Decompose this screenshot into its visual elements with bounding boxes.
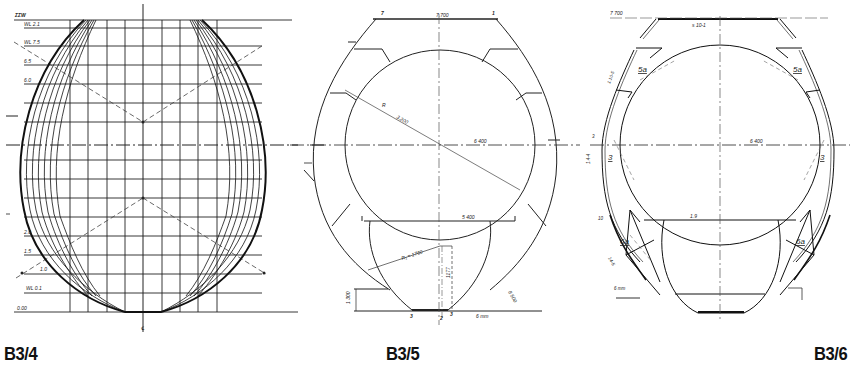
figure-b3-4: ΣΣW WL 2.1 WL 7.5 6.5 6.0 2.0 1.5 1.0 WL… [0, 0, 300, 340]
svg-text:2.0: 2.0 [23, 229, 31, 235]
svg-text:0.00: 0.00 [17, 305, 27, 311]
structural-section-drawing: 7 700 s 10-1 6 400 1.9 5a 5a 3 3 6a 6a 3… [580, 0, 860, 340]
svg-text:R₁ = 1760: R₁ = 1760 [400, 248, 423, 261]
svg-text:6.5: 6.5 [24, 58, 31, 64]
svg-text:2: 2 [439, 315, 443, 321]
figure-caption: B3/6 [814, 344, 847, 365]
svg-text:7: 7 [381, 10, 384, 16]
svg-text:6 mm: 6 mm [614, 286, 626, 291]
svg-text:WL 2.1: WL 2.1 [24, 21, 40, 27]
figure-b3-5: 7.700 7 1 R 3.200 6 400 5 400 R₁ = 1760 … [290, 0, 580, 340]
svg-text:3: 3 [450, 311, 453, 317]
figure-caption: B3/5 [386, 344, 419, 365]
svg-text:WL 0.1: WL 0.1 [26, 285, 42, 291]
svg-text:6 400: 6 400 [750, 138, 763, 144]
svg-text:5a: 5a [793, 65, 802, 74]
svg-text:s 10-1: s 10-1 [692, 22, 706, 28]
svg-text:3: 3 [820, 153, 825, 162]
svg-text:6a: 6a [796, 237, 805, 246]
svg-text:3: 3 [592, 134, 595, 139]
svg-text:1.5: 1.5 [24, 248, 31, 254]
svg-text:6 mm: 6 mm [476, 313, 489, 319]
svg-text:14-5: 14-5 [607, 256, 616, 267]
svg-text:7 700: 7 700 [610, 10, 623, 16]
svg-text:8 500: 8 500 [507, 290, 519, 304]
svg-text:3.200: 3.200 [396, 114, 410, 126]
svg-text:5a: 5a [638, 65, 647, 74]
lines-plan-drawing: ΣΣW WL 2.1 WL 7.5 6.5 6.0 2.0 1.5 1.0 WL… [0, 0, 300, 340]
svg-text:R: R [382, 102, 386, 108]
cross-section-drawing: 7.700 7 1 R 3.200 6 400 5 400 R₁ = 1760 … [290, 0, 580, 340]
svg-text:1.4-4: 1.4-4 [586, 153, 591, 164]
svg-text:3: 3 [410, 313, 413, 319]
svg-text:5 400: 5 400 [462, 214, 475, 220]
svg-text:10: 10 [598, 216, 604, 221]
svg-text:1.9: 1.9 [690, 213, 697, 219]
svg-text:7.700: 7.700 [436, 12, 449, 18]
label-top-wl: ΣΣW [14, 12, 27, 18]
svg-text:℄: ℄ [141, 325, 145, 331]
svg-text:WL 7.5: WL 7.5 [24, 39, 40, 45]
svg-text:1 300: 1 300 [345, 291, 351, 304]
figure-caption: B3/4 [4, 344, 37, 365]
svg-text:1.10-5: 1.10-5 [606, 70, 615, 84]
svg-text:1.0: 1.0 [40, 266, 47, 272]
svg-text:6.0: 6.0 [24, 77, 31, 83]
svg-text:1: 1 [492, 10, 495, 16]
svg-text:6 400: 6 400 [474, 138, 487, 144]
svg-text:1177: 1177 [445, 267, 451, 278]
svg-text:6a: 6a [620, 237, 629, 246]
figure-b3-6: 7 700 s 10-1 6 400 1.9 5a 5a 3 3 6a 6a 3… [580, 0, 860, 340]
svg-text:3: 3 [608, 153, 613, 162]
